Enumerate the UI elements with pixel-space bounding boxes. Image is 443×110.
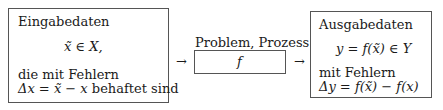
output-error-line1: mit Fehlern [319, 66, 396, 79]
arrow-right-icon: → [176, 55, 187, 68]
output-title: Ausgabedaten [319, 18, 413, 31]
input-error-line2: Δx = x̃ − x behaftet sind [18, 82, 179, 95]
process-symbol: f [237, 55, 242, 68]
output-error-formula: Δy = f(x̃) − f(x) [319, 80, 419, 93]
input-formula: x̃ ∈ X, [64, 40, 103, 53]
arrow-right-icon: → [294, 55, 305, 68]
input-error-line1: die mit Fehlern [18, 68, 119, 81]
input-title: Eingabedaten [18, 15, 109, 28]
input-error-formula: Δx = x̃ − x [18, 81, 88, 96]
input-error-text: behaftet sind [88, 81, 179, 96]
output-formula: y = f(x̃) ∈ Y [336, 42, 411, 55]
process-label: Problem, Prozess [195, 36, 309, 49]
